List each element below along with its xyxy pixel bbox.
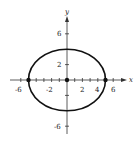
y-axis-label: y	[64, 8, 70, 16]
y-tick-label: -6	[54, 123, 61, 131]
vertex-right-point	[103, 78, 107, 82]
x-tick-label: -6	[15, 86, 22, 94]
center-point	[65, 78, 69, 82]
y-tick-label: 2	[57, 61, 61, 69]
x-tick-label: 4	[95, 86, 100, 94]
x-tick-label: 2	[80, 86, 84, 94]
ellipse-graph: x y -6 -2 2 4 6 6 2 -6	[0, 0, 139, 141]
x-tick-label: -2	[46, 86, 53, 94]
x-tick-label: 6	[111, 86, 116, 94]
y-tick-label: 6	[57, 30, 62, 38]
vertex-left-point	[26, 78, 30, 82]
x-axis-label: x	[129, 76, 133, 84]
x-axis-arrow-icon	[121, 78, 127, 82]
y-axis-arrow-icon	[65, 16, 69, 22]
